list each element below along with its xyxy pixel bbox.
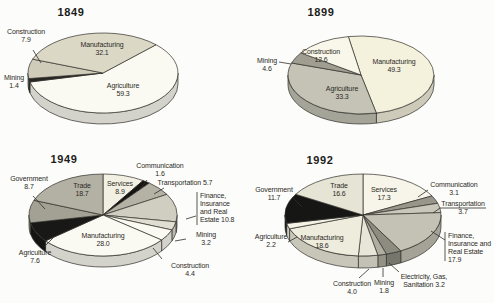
label-construction: Construction12.6 bbox=[302, 48, 340, 64]
pie-rim-mining bbox=[378, 254, 387, 267]
label-construction: Construction7.9 bbox=[7, 28, 45, 44]
label-manufacturing: Manufacturing28.0 bbox=[81, 232, 124, 248]
label-agriculture: Agriculture59.3 bbox=[107, 82, 139, 98]
leader-line-finance-insurance-and-real-estate bbox=[186, 216, 196, 219]
leader-line-mining bbox=[279, 62, 291, 64]
label-communication: Communication1.6 bbox=[136, 162, 183, 178]
label-mining: Mining4.6 bbox=[257, 57, 277, 73]
label-manufacturing: Manufacturing18.6 bbox=[300, 234, 343, 250]
leader-line-construction bbox=[359, 269, 369, 278]
leader-line-mining bbox=[175, 239, 186, 241]
label-government: Government11.7 bbox=[255, 186, 293, 202]
label-finance-insurance-and-real-estate: Finance,Insuranceand RealEstate 10.8 bbox=[200, 192, 234, 224]
label-electricity-gas-sanitation: Electricity, Gas,Sanitation 3.2 bbox=[401, 273, 447, 289]
chart-title-1849: 1849 bbox=[58, 6, 85, 18]
pie-charts-figure: 1849Agriculture59.3Mining1.4Construction… bbox=[0, 0, 494, 303]
label-mining: Mining3.2 bbox=[196, 231, 216, 247]
label-agriculture: Agriculture33.3 bbox=[326, 85, 358, 101]
label-services: Services17.3 bbox=[371, 186, 397, 202]
label-agriculture: Agriculture2.2 bbox=[255, 233, 287, 249]
label-agriculture: Agriculture7.6 bbox=[19, 249, 51, 265]
label-finance-insurance-and-real-estate: Finance,Insurance andReal Estate17.9 bbox=[448, 232, 491, 264]
label-mining: Mining1.8 bbox=[374, 279, 394, 295]
label-transportation: Transportation3.7 bbox=[441, 200, 484, 216]
chart-title-1899: 1899 bbox=[308, 6, 335, 18]
chart-title-1949: 1949 bbox=[51, 153, 78, 165]
chart-title-1992: 1992 bbox=[307, 154, 334, 166]
label-transportation: Transportation 5.7 bbox=[158, 179, 213, 187]
pie-figure-svg bbox=[0, 0, 494, 303]
label-manufacturing: Manufacturing49.3 bbox=[372, 58, 415, 74]
label-mining: Mining1.4 bbox=[4, 74, 24, 90]
label-government: Government8.7 bbox=[10, 175, 48, 191]
label-manufacturing: Manufacturing32.1 bbox=[80, 41, 123, 57]
label-communication: Communication3.1 bbox=[430, 181, 477, 197]
label-trade: Trade16.6 bbox=[330, 182, 348, 198]
label-construction: Construction4.0 bbox=[333, 280, 371, 296]
pie-rim-construction bbox=[358, 255, 377, 268]
label-construction: Construction4.4 bbox=[171, 262, 209, 278]
label-services: Services8.9 bbox=[107, 180, 133, 196]
label-trade: Trade18.7 bbox=[73, 182, 91, 198]
